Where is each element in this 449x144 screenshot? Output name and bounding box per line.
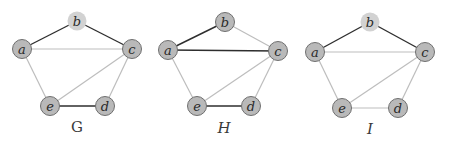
node-label-b: b bbox=[221, 15, 229, 30]
edge-a-c bbox=[168, 50, 278, 51]
node-label-d: d bbox=[247, 99, 255, 114]
node-label-e: e bbox=[338, 101, 346, 116]
node-label-a: a bbox=[311, 45, 319, 60]
node-label-e: e bbox=[46, 99, 54, 114]
edge-c-e bbox=[197, 51, 278, 106]
node-label-b: b bbox=[73, 14, 81, 29]
graph-i: abcdeI bbox=[306, 13, 435, 139]
node-label-a: a bbox=[164, 43, 172, 58]
node-label-d: d bbox=[394, 101, 402, 116]
graph-diagram: abcdeG abcdeH abcdeI bbox=[0, 0, 449, 144]
node-label-c: c bbox=[128, 42, 136, 57]
graph-name-label: I bbox=[366, 120, 374, 138]
graph-g: abcdeG bbox=[13, 12, 142, 137]
graph-name-label: G bbox=[71, 118, 83, 136]
node-label-a: a bbox=[18, 42, 26, 57]
edge-c-e bbox=[50, 49, 132, 106]
node-label-b: b bbox=[366, 15, 374, 30]
node-label-c: c bbox=[421, 45, 429, 60]
node-label-c: c bbox=[274, 44, 282, 59]
node-label-e: e bbox=[193, 99, 201, 114]
graph-name-label: H bbox=[216, 119, 231, 137]
edge-c-e bbox=[342, 52, 425, 108]
node-label-d: d bbox=[101, 99, 109, 114]
graph-h: abcdeH bbox=[159, 13, 288, 138]
